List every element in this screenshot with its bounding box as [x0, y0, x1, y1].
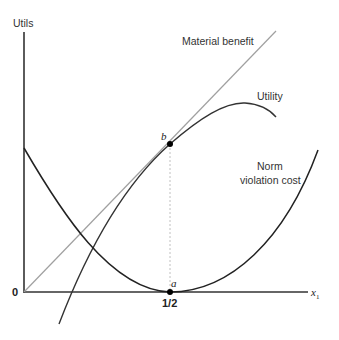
material-benefit-line — [24, 31, 276, 292]
norm-cost-label-line2: violation cost — [240, 174, 301, 186]
material-benefit-label: Material benefit — [182, 35, 254, 47]
point-b — [167, 141, 173, 147]
point-a-label: a — [171, 277, 177, 289]
y-axis-label: Utils — [13, 17, 33, 29]
point-b-label: b — [161, 130, 167, 142]
norm-cost-label-line1: Norm — [257, 160, 283, 172]
point-a — [167, 289, 173, 295]
diagram-canvas: Utils Material benefit Utility Norm viol… — [0, 0, 339, 340]
origin-label: 0 — [12, 286, 18, 298]
utility-label: Utility — [257, 90, 283, 102]
x-axis-label: x1 — [310, 286, 320, 301]
tick-label-half: 1/2 — [162, 297, 177, 309]
x-axis-label-subscript: 1 — [316, 293, 320, 301]
